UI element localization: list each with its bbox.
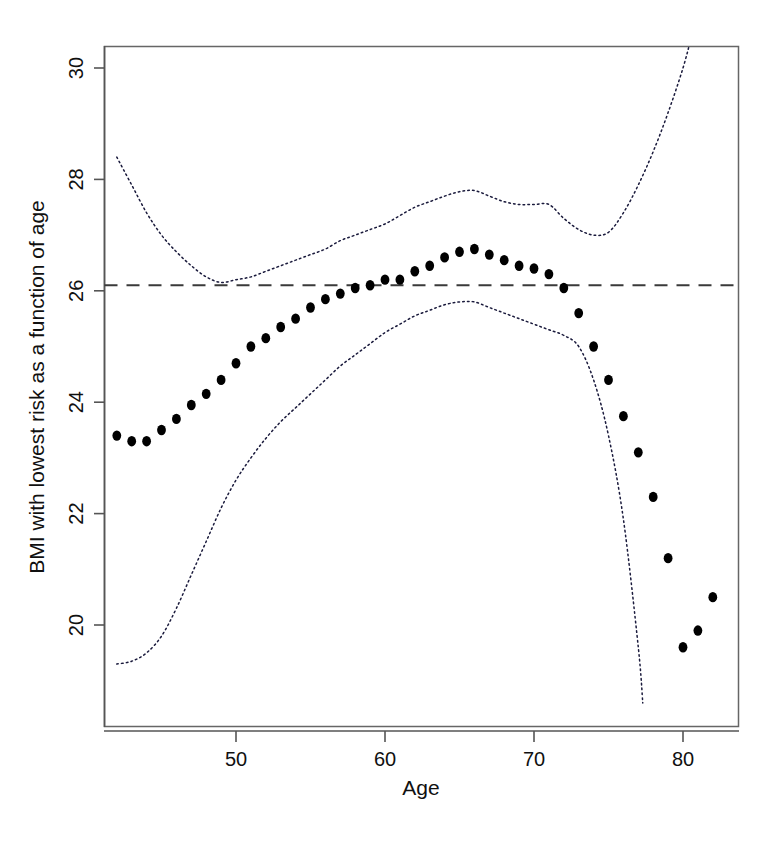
data-point bbox=[232, 358, 241, 368]
data-point bbox=[142, 436, 151, 446]
data-point bbox=[545, 269, 554, 279]
data-point bbox=[276, 322, 285, 332]
x-tick-label: 80 bbox=[672, 748, 694, 770]
x-tick-label: 70 bbox=[523, 748, 545, 770]
data-point bbox=[321, 294, 330, 304]
data-point bbox=[261, 333, 270, 343]
chart-figure: 202224262830 50607080 Age BMI with lowes… bbox=[0, 0, 777, 844]
data-point bbox=[485, 249, 494, 259]
data-point bbox=[589, 341, 598, 351]
data-point bbox=[336, 288, 345, 298]
data-point bbox=[291, 313, 300, 323]
data-point bbox=[559, 283, 568, 293]
data-point bbox=[247, 341, 256, 351]
data-point bbox=[396, 274, 405, 284]
data-point bbox=[500, 255, 509, 265]
data-point bbox=[187, 400, 196, 410]
data-point bbox=[425, 261, 434, 271]
x-tick-label: 50 bbox=[225, 748, 247, 770]
y-axis-title: BMI with lowest risk as a function of ag… bbox=[25, 200, 48, 574]
y-tick-label: 22 bbox=[65, 502, 87, 524]
data-point bbox=[127, 436, 136, 446]
data-point bbox=[410, 266, 419, 276]
data-point bbox=[172, 414, 181, 424]
x-axis-title: Age bbox=[402, 776, 439, 799]
data-point bbox=[306, 302, 315, 312]
data-point bbox=[530, 263, 539, 273]
data-point bbox=[694, 625, 703, 635]
data-point bbox=[679, 642, 688, 652]
y-tick-label: 30 bbox=[65, 57, 87, 79]
y-tick-label: 24 bbox=[65, 391, 87, 413]
data-point bbox=[664, 553, 673, 563]
data-point bbox=[604, 375, 613, 385]
data-point bbox=[515, 261, 524, 271]
data-point bbox=[619, 411, 628, 421]
y-tick-label: 20 bbox=[65, 614, 87, 636]
data-point bbox=[157, 425, 166, 435]
data-point bbox=[574, 308, 583, 318]
x-tick-label: 60 bbox=[374, 748, 396, 770]
data-point bbox=[708, 592, 717, 602]
data-point bbox=[351, 283, 360, 293]
figure-background bbox=[0, 0, 777, 844]
data-point bbox=[455, 247, 464, 257]
bmi-age-scatter-plot: 202224262830 50607080 Age BMI with lowes… bbox=[0, 0, 777, 844]
data-point bbox=[381, 274, 390, 284]
data-point bbox=[470, 244, 479, 254]
data-point bbox=[217, 375, 226, 385]
y-tick-label: 26 bbox=[65, 280, 87, 302]
data-point bbox=[440, 252, 449, 262]
data-point bbox=[366, 280, 375, 290]
data-point bbox=[202, 389, 211, 399]
data-point bbox=[634, 447, 643, 457]
y-tick-label: 28 bbox=[65, 168, 87, 190]
data-point bbox=[649, 492, 658, 502]
data-point bbox=[112, 430, 121, 440]
